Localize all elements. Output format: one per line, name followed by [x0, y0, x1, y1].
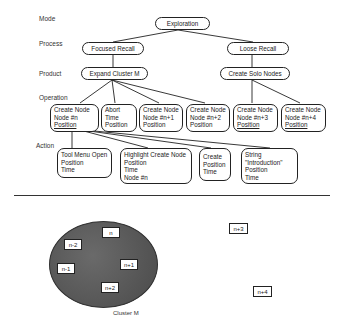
op-line: Position [190, 121, 226, 129]
op-line: Abort [105, 106, 133, 114]
cluster-label: Cluster M [113, 310, 139, 316]
op-line: Position [237, 121, 274, 129]
cluster-node-n-2: n-2 [64, 239, 82, 250]
solo-node-n+4: n+4 [253, 286, 272, 297]
level-label-product: Product [39, 70, 61, 77]
op-line: Create Node [143, 106, 179, 114]
operation-abort: Abort Time Position [101, 104, 137, 132]
op-line: Create Node [54, 106, 95, 114]
level-label-operation: Operation [39, 94, 68, 101]
op-line: Node #n+3 [237, 114, 274, 122]
action-create: Create Position Time [199, 148, 231, 181]
op-line: Position [105, 121, 133, 129]
op-line: Node #n+2 [190, 114, 226, 122]
action-line: Position [124, 159, 188, 167]
action-line: Position [203, 161, 227, 169]
action-line: Time [245, 174, 294, 182]
operation-create-node-n3: Create Node Node #n+3 Position [233, 104, 278, 132]
action-tool-menu-open: Tool Menu Open Position Time [57, 148, 112, 178]
level-label-process: Process [39, 40, 62, 47]
op-line: Create Node [237, 106, 274, 114]
action-line: Position [61, 159, 108, 167]
operation-create-node-n1: Create Node Node #n+1 Position [139, 104, 183, 132]
solo-node-n+3: n+3 [229, 223, 248, 234]
op-line: Position [143, 121, 179, 129]
action-line: Time [61, 166, 108, 174]
action-line: "Introduction" [245, 159, 294, 167]
operation-create-node-n4: Create Node Node #n+4 Position [281, 104, 326, 132]
op-line: Create Node [190, 106, 226, 114]
section-divider [14, 195, 330, 196]
op-line: Create Node [285, 106, 322, 114]
cluster-node-n: n [102, 227, 120, 238]
action-highlight-create-node: Highlight Create Node Position Time Node… [120, 148, 192, 184]
op-line: Position [285, 121, 322, 129]
op-line: Time [105, 114, 133, 122]
node-exploration: Exploration [155, 17, 210, 30]
node-loose-recall: Loose Recall [227, 42, 289, 55]
action-line: Time [203, 168, 227, 176]
cluster-node-n+1: n+1 [120, 259, 138, 270]
op-line: Node #n+4 [285, 114, 322, 122]
node-expand-cluster-m: Expand Cluster M [81, 67, 148, 80]
level-label-action: Action [36, 142, 54, 149]
action-line: Create [203, 153, 227, 161]
op-line: Position [54, 121, 95, 129]
node-create-solo-nodes: Create Solo Nodes [220, 67, 290, 80]
operation-create-node-n2: Create Node Node #n+2 Position [186, 104, 230, 132]
op-line: Node #n+1 [143, 114, 179, 122]
operation-create-node-n: Create Node Node #n Position [50, 104, 99, 132]
op-line: Node #n [54, 114, 95, 122]
action-line: Tool Menu Open [61, 151, 108, 159]
action-line: Position [245, 166, 294, 174]
cluster-node-n-1: n-1 [57, 263, 75, 274]
action-line: Node #n [124, 174, 188, 182]
action-line: Highlight Create Node [124, 151, 188, 159]
cluster-node-n+2: n+2 [101, 282, 119, 293]
node-focused-recall: Focused Recall [82, 42, 144, 55]
action-line: String [245, 151, 294, 159]
level-label-mode: Mode [39, 15, 55, 22]
action-string-introduction: String "Introduction" Position Time [241, 148, 298, 184]
action-line: Time [124, 166, 188, 174]
